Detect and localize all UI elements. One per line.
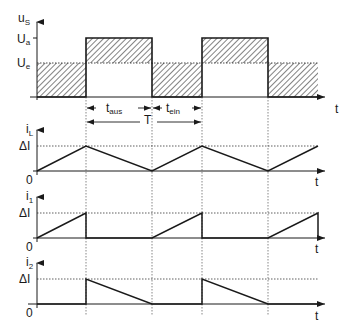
hatch-region [37,63,86,97]
t-on-label: tein [166,101,180,116]
ua-label: Ua [17,32,31,47]
y-label: i2 [26,255,34,271]
period-label: T [144,113,152,127]
time-guides [86,97,268,315]
delta-i-label: ΔI [19,206,30,220]
i1-waveform [37,213,318,238]
y-label: uS [18,11,30,27]
inductor-current-plot: iL ΔI 0 t [19,122,325,189]
t-off-label: taus [106,101,122,116]
hatch-region [152,63,202,97]
hatch-region [268,63,318,97]
x-label-t: t [315,309,319,323]
y-label: i1 [26,189,34,205]
hatch-region [202,38,268,63]
i2-waveform [37,279,318,304]
delta-i-label: ΔI [19,272,30,286]
x-label-t: t [335,102,339,116]
diode-current-plot: i2 ΔI 0 t [19,255,325,323]
hatch-region [86,38,152,63]
zero-label: 0 [26,240,33,254]
x-label-t: t [315,242,319,256]
zero-label: 0 [26,173,33,187]
ue-label: Ue [17,56,31,71]
delta-i-label: ΔI [19,139,30,153]
il-waveform [37,146,318,171]
buck-converter-timing-diagram: uS Ua Ue t taus tein T iL ΔI 0 t [0,0,351,335]
voltage-plot: uS Ua Ue t taus tein T [17,11,339,127]
switch-current-plot: i1 ΔI 0 t [19,189,325,256]
y-label: iL [26,122,34,138]
zero-label: 0 [26,306,33,320]
x-label-t: t [315,175,319,189]
